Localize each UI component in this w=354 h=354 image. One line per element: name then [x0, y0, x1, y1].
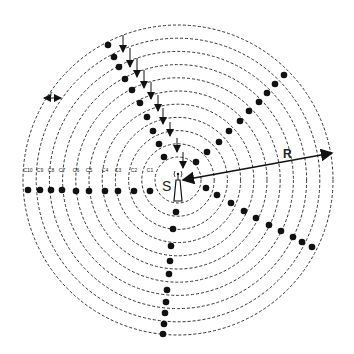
ring-label: C9	[37, 167, 44, 173]
source-label: S	[162, 178, 171, 194]
ring-label: C1	[147, 167, 154, 173]
node-dot-upper_right	[226, 128, 233, 135]
node-dot-bottom	[167, 258, 174, 265]
node-dot-left	[115, 188, 122, 195]
node-dot-bottom	[164, 287, 171, 294]
down-arrows	[123, 35, 183, 168]
node-dot-upper_right	[272, 81, 279, 88]
node-dot-left	[86, 188, 93, 195]
node-dot-left	[131, 188, 138, 195]
node-dot-left	[102, 188, 109, 195]
node-dot-upper_left	[129, 87, 136, 94]
node-dot-left	[37, 187, 44, 194]
node-dot-lower_right	[253, 215, 260, 222]
concentric-rings-diagram: C10C9C8C7C6C5C4C3C2C1 S R r	[0, 0, 354, 354]
node-dot-bottom	[163, 299, 170, 306]
node-dot-upper_left	[111, 54, 118, 61]
node-dot-bottom	[160, 331, 167, 338]
node-dot-upper_left	[150, 128, 157, 135]
node-dot-lower_right	[278, 228, 285, 235]
ring-label: C4	[102, 167, 109, 173]
node-dot-upper_left	[156, 141, 163, 148]
node-dot-bottom	[168, 243, 175, 250]
node-dot-left	[48, 187, 55, 194]
node-dot-upper_left	[161, 154, 168, 161]
node-dot-lower_right	[266, 222, 273, 229]
node-dot-upper_left	[105, 42, 112, 49]
node-dot-left	[59, 187, 66, 194]
node-dot-lower_right	[299, 239, 306, 246]
node-dot-bottom	[161, 321, 168, 328]
node-dot-bottom	[166, 271, 173, 278]
node-dot-lower_right	[214, 192, 221, 199]
antenna-tower-icon	[174, 171, 182, 201]
ring-label: C2	[131, 167, 138, 173]
node-dot-upper_right	[281, 72, 288, 79]
node-dot-upper_left	[137, 100, 144, 107]
node-dot-left	[147, 188, 154, 195]
node-dot-upper_right	[237, 118, 244, 125]
ring-label: C3	[115, 167, 122, 173]
node-dot-lower_right	[309, 244, 316, 251]
node-dot-bottom	[170, 226, 177, 233]
node-dot-lower_right	[203, 185, 210, 192]
ring-label: C10	[23, 167, 32, 173]
node-dot-lower_right	[228, 200, 235, 207]
spacing-label: r	[50, 89, 53, 98]
ring-label: C6	[73, 167, 80, 173]
node-dot-upper_right	[256, 99, 263, 106]
coverage-diagram: C10C9C8C7C6C5C4C3C2C1 S R r	[0, 0, 354, 354]
radius-label: R	[283, 147, 292, 161]
node-dot-left	[73, 188, 80, 195]
node-dot-upper_right	[193, 159, 200, 166]
node-dot-lower_right	[290, 234, 297, 241]
node-dot-bottom	[173, 209, 180, 216]
node-dot-upper_right	[216, 139, 223, 146]
node-dot-upper_right	[204, 149, 211, 156]
node-dot-upper_right	[264, 90, 271, 97]
node-dot-left	[25, 187, 32, 194]
node-dot-upper_left	[122, 76, 129, 83]
ring-label: C7	[59, 167, 66, 173]
node-dot-lower_right	[241, 208, 248, 215]
node-dot-upper_left	[116, 64, 123, 71]
ring-label: C8	[48, 167, 55, 173]
node-dot-upper_left	[144, 114, 151, 121]
ring-label: C5	[86, 167, 93, 173]
node-dot-upper_right	[246, 108, 253, 115]
node-dot-bottom	[162, 310, 169, 317]
ring-labels: C10C9C8C7C6C5C4C3C2C1	[23, 167, 153, 173]
